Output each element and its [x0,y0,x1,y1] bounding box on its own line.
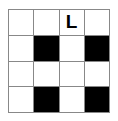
grid-cell-blocked [85,36,109,61]
grid-cell-open[interactable] [9,62,33,87]
grid-cell-open[interactable] [34,10,58,35]
crossword-grid: L [8,9,110,113]
grid-cell-open[interactable] [9,10,33,35]
grid-cell-letter: L [66,12,78,31]
grid-cell-open[interactable] [60,87,84,112]
grid-cell-open[interactable] [60,36,84,61]
grid-cell-blocked [34,87,58,112]
grid-cell-open[interactable] [34,62,58,87]
grid-cell-open[interactable] [85,62,109,87]
grid-cell-open[interactable] [85,10,109,35]
grid-cell-open[interactable] [9,87,33,112]
puzzle-grid-container: L [0,0,118,121]
grid-cell-blocked [85,87,109,112]
grid-cell-open[interactable]: L [60,10,84,35]
grid-cell-open[interactable] [60,62,84,87]
grid-cell-open[interactable] [9,36,33,61]
grid-cell-blocked [34,36,58,61]
